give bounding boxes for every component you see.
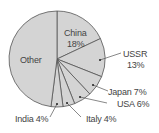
ussr-marker [99, 59, 101, 61]
label-ussr: USSR [123, 49, 147, 59]
italy-leader [67, 103, 81, 117]
label-ussr-pct: 13% [127, 60, 144, 70]
label-india: India 4% [15, 114, 48, 124]
usa-marker [79, 96, 81, 98]
label-china: China [64, 28, 87, 38]
india-marker [56, 103, 58, 105]
italy-marker [66, 102, 68, 104]
japan-marker [92, 84, 94, 86]
label-china-pct: 18% [67, 39, 84, 49]
usa-leader [80, 97, 107, 103]
label-other: Other [20, 55, 42, 65]
label-italy: Italy 4% [86, 114, 116, 124]
label-japan: Japan 7% [108, 87, 146, 97]
label-usa: USA 6% [117, 99, 149, 109]
